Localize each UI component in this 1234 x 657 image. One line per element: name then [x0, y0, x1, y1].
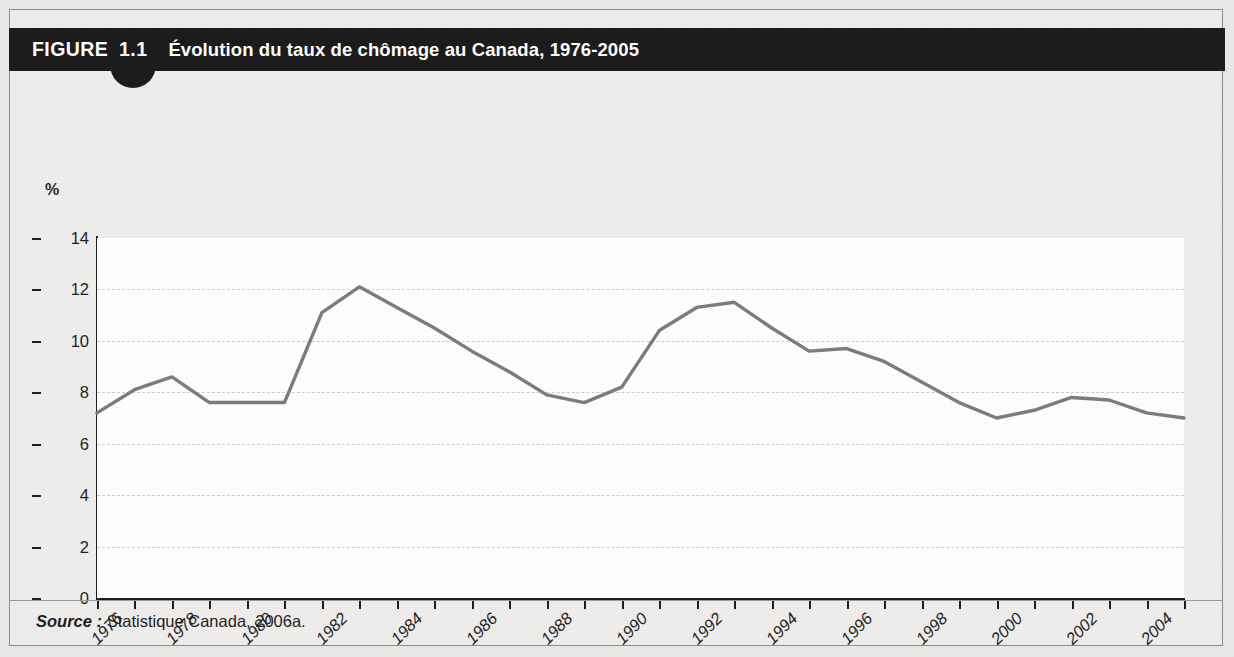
x-axis-tick — [509, 600, 511, 609]
y-axis-tick — [32, 289, 41, 291]
plot-area — [97, 238, 1184, 598]
y-axis-tick — [32, 547, 41, 549]
x-axis-tick — [584, 600, 586, 609]
x-axis-tick — [359, 600, 361, 609]
data-line-chart — [97, 238, 1184, 598]
x-axis-tick — [322, 600, 324, 609]
x-axis-tick-label: 1986 — [462, 609, 501, 648]
figure-title-bar: FIGURE 1.1 Évolution du taux de chômage … — [9, 28, 1225, 71]
y-axis-tick-label: 10 — [49, 331, 89, 350]
figure-number: 1.1 — [119, 38, 147, 61]
x-axis-tick-label: 2000 — [987, 609, 1026, 648]
x-axis-tick-label: 1992 — [687, 609, 726, 648]
x-axis-tick-label: 2002 — [1062, 609, 1101, 648]
y-axis-tick-label: 2 — [49, 537, 89, 556]
x-axis-tick — [134, 600, 136, 609]
source-separator — [9, 600, 1223, 601]
y-axis-tick — [32, 392, 41, 394]
x-axis-tick-label: 1994 — [762, 609, 801, 648]
y-axis-tick-label: 12 — [49, 280, 89, 299]
y-axis-tick-label: 4 — [49, 486, 89, 505]
y-axis-tick-label: 8 — [49, 383, 89, 402]
x-axis-tick — [284, 600, 286, 609]
x-axis-tick — [97, 600, 99, 609]
x-axis-tick — [1109, 600, 1111, 609]
x-axis-tick-label: 1982 — [312, 609, 351, 648]
x-axis-tick — [1147, 600, 1149, 609]
y-axis-tick-label: 0 — [49, 589, 89, 608]
y-axis-tick-label: 6 — [49, 434, 89, 453]
x-axis-tick — [247, 600, 249, 609]
chart-region: % 02468101214 19761978198019821984198619… — [9, 71, 1223, 600]
x-axis-tick-label: 2004 — [1137, 609, 1176, 648]
x-axis-tick-label: 1990 — [612, 609, 651, 648]
x-axis-tick — [659, 600, 661, 609]
x-axis-tick — [547, 600, 549, 609]
y-axis-tick-labels: 02468101214 — [41, 238, 89, 598]
x-axis-tick — [772, 600, 774, 609]
x-axis-tick — [1072, 600, 1074, 609]
x-axis-tick — [172, 600, 174, 609]
source-text: Statistique Canada, 2006a. — [107, 612, 306, 630]
x-axis-tick — [809, 600, 811, 609]
y-axis-tick — [32, 495, 41, 497]
unemployment-rate-line — [97, 287, 1184, 418]
x-axis-tick — [472, 600, 474, 609]
x-axis-tick — [434, 600, 436, 609]
x-axis-tick — [1034, 600, 1036, 609]
y-axis-tick — [32, 444, 41, 446]
x-axis-tick — [397, 600, 399, 609]
x-axis-tick — [847, 600, 849, 609]
y-axis-tick-label: 14 — [49, 229, 89, 248]
x-axis-tick — [1184, 600, 1186, 609]
x-axis-tick — [922, 600, 924, 609]
x-axis-tick-label: 1996 — [837, 609, 876, 648]
x-axis-tick — [697, 600, 699, 609]
y-axis-unit-label: % — [45, 181, 59, 199]
x-axis-tick-label: 1988 — [537, 609, 576, 648]
figure-title-bar-content: FIGURE 1.1 Évolution du taux de chômage … — [32, 28, 639, 71]
figure-title: Évolution du taux de chômage au Canada, … — [168, 39, 639, 61]
y-axis-tick — [32, 238, 41, 240]
x-axis-tick — [209, 600, 211, 609]
x-axis-tick — [622, 600, 624, 609]
x-axis-tick — [997, 600, 999, 609]
figure-label: FIGURE — [32, 38, 108, 61]
x-axis-tick — [734, 600, 736, 609]
y-axis-tick — [32, 341, 41, 343]
x-axis-tick-label: 1998 — [912, 609, 951, 648]
x-axis-tick-label: 1984 — [387, 609, 426, 648]
x-axis-tick — [884, 600, 886, 609]
source-note: Source : Statistique Canada, 2006a. — [36, 612, 306, 631]
source-keyword: Source : — [36, 612, 102, 630]
x-axis-tick — [959, 600, 961, 609]
